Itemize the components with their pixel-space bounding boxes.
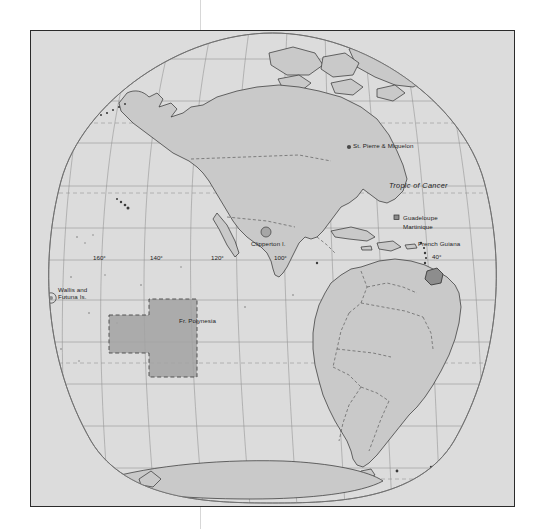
map-page: St. Pierre & Miquelon Tropic of Cancer G… [0,0,538,529]
graticule-label-lon-40w: 40° [432,253,441,260]
graticule-label-lon-100w: 100° [274,254,287,261]
label-wallis-and-futuna: Wallis and Futuna Is. [58,286,87,300]
highlight-guadeloupe-martinique[interactable] [394,215,399,220]
graticule-label-lon-140w: 140° [150,254,163,261]
label-clipperton-island: Clipperton I. [251,240,286,247]
label-guadeloupe: Guadeloupe [403,214,438,221]
label-st-pierre-miquelon: St. Pierre & Miquelon [353,142,414,149]
graticule-label-lon-160w: 160° [93,254,106,261]
highlight-clipperton[interactable] [261,227,271,237]
label-martinique: Martinique [403,223,433,230]
map-frame: St. Pierre & Miquelon Tropic of Cancer G… [30,30,515,507]
label-french-guiana: French Guiana [418,240,460,247]
marker-st-pierre-miquelon[interactable] [347,145,351,149]
graticule-tick-mark [316,262,318,264]
label-tropic-of-cancer: Tropic of Cancer [389,182,448,189]
label-french-polynesia: Fr. Polynesia [179,317,216,324]
graticule-label-lon-120w: 120° [211,254,224,261]
map-canvas [31,31,514,506]
